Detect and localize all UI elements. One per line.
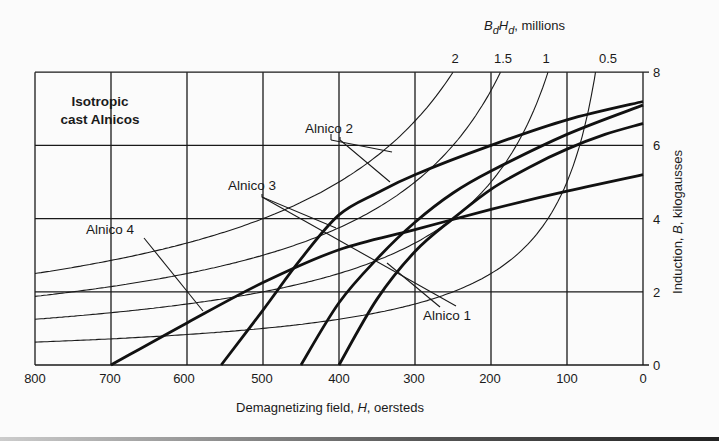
label-alnico-2: Alnico 2 bbox=[305, 121, 353, 136]
y-tick: 6 bbox=[653, 138, 660, 153]
alnico-curves bbox=[111, 102, 643, 366]
y-tick-labels: 0 2 4 6 8 bbox=[653, 65, 660, 373]
x-tick: 100 bbox=[556, 371, 578, 386]
bh-tick: 2 bbox=[451, 51, 458, 66]
chart: 800 700 600 500 400 300 200 100 0 0 2 4 … bbox=[0, 0, 719, 441]
leader-alnico-1 bbox=[387, 263, 440, 307]
bottom-rule bbox=[0, 437, 719, 441]
bh-tick-labels: 2 1.5 1 0.5 bbox=[451, 51, 617, 66]
top-axis-label: BdHd, millions bbox=[484, 18, 565, 36]
y-tick: 0 bbox=[653, 358, 660, 373]
y-axis-label: Induction, B, kilogausses bbox=[670, 150, 685, 294]
bh-tick: 0.5 bbox=[599, 51, 617, 66]
x-tick: 0 bbox=[639, 371, 646, 386]
x-axis-label: Demagnetizing field, H, oersteds bbox=[236, 400, 424, 415]
label-alnico-3: Alnico 3 bbox=[228, 178, 276, 193]
y-tick: 2 bbox=[653, 285, 660, 300]
x-tick: 500 bbox=[251, 371, 273, 386]
x-tick: 700 bbox=[99, 371, 121, 386]
y-tick: 8 bbox=[653, 65, 660, 80]
chart-title-line2: cast Alnicos bbox=[60, 112, 139, 127]
label-alnico-1: Alnico 1 bbox=[423, 308, 471, 323]
chart-title-line1: Isotropic bbox=[71, 94, 128, 109]
x-tick: 800 bbox=[24, 371, 46, 386]
label-alnico-4: Alnico 4 bbox=[86, 222, 135, 237]
x-tick: 300 bbox=[403, 371, 425, 386]
alnico-4-curve bbox=[111, 175, 643, 365]
leader-alnico-3-a bbox=[262, 194, 336, 228]
x-tick: 400 bbox=[328, 371, 350, 386]
bh-tick: 1.5 bbox=[494, 51, 512, 66]
x-tick: 600 bbox=[173, 371, 195, 386]
leader-lines bbox=[144, 137, 456, 311]
y-tick: 4 bbox=[653, 212, 660, 227]
bh-tick: 1 bbox=[542, 51, 549, 66]
leader-alnico-4 bbox=[144, 238, 203, 311]
x-tick-labels: 800 700 600 500 400 300 200 100 0 bbox=[24, 371, 646, 386]
x-tick: 200 bbox=[479, 371, 501, 386]
bh-curve bbox=[35, 72, 548, 319]
